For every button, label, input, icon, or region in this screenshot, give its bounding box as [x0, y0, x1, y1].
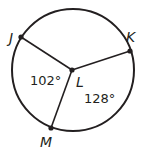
point-k — [127, 48, 132, 53]
label-m: M — [40, 134, 52, 150]
angle-klm: 128° — [84, 91, 115, 106]
point-j — [18, 34, 23, 39]
label-j: J — [6, 30, 13, 46]
label-l: L — [76, 74, 84, 90]
circle-diagram: J K M L 102° 128° — [0, 0, 145, 161]
label-k: K — [126, 29, 137, 45]
radius-lj — [21, 37, 72, 70]
angle-jlm: 102° — [30, 73, 61, 88]
point-m — [48, 125, 53, 130]
radius-lk — [72, 51, 130, 70]
point-l — [69, 67, 74, 72]
